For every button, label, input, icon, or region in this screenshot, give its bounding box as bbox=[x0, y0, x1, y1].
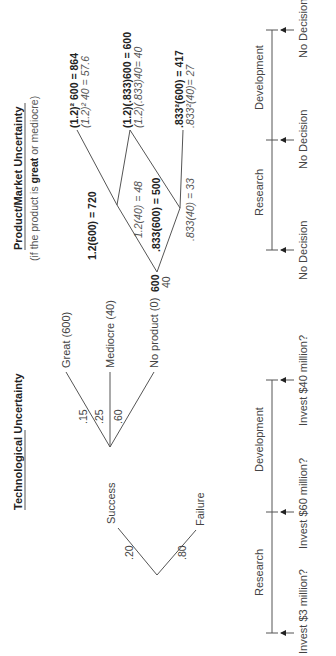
phase-development: Development bbox=[253, 45, 265, 110]
tech-title: Technological Uncertainty bbox=[12, 372, 24, 510]
phase-development: Development bbox=[253, 407, 265, 472]
prob-no-product: .60 bbox=[112, 409, 124, 424]
end-down-down-mediocre: .833²(40)= 27 bbox=[184, 64, 196, 128]
label-success: Success bbox=[105, 482, 117, 524]
mid-up-mediocre: 1.2(40) = 48 bbox=[132, 181, 144, 238]
end-up-down-mediocre: (1.2)(.833)40= 40 bbox=[132, 46, 144, 128]
mid-down-value: .833(600) = 500 bbox=[150, 177, 162, 252]
end-up-up-mediocre: (1.2)² 40 = 57.6 bbox=[79, 56, 91, 128]
label-failure: Failure bbox=[194, 492, 206, 526]
label-great: Great (600) bbox=[60, 312, 72, 368]
arrow-up-icon bbox=[280, 377, 286, 383]
phase-research: Research bbox=[253, 549, 265, 596]
decision-invest-3m: Invest $3 million? bbox=[297, 569, 309, 654]
phase-research: Research bbox=[253, 169, 265, 216]
prob-great: .15 bbox=[77, 409, 89, 424]
prob-success: .20 bbox=[123, 545, 135, 560]
decision-invest-60m: Invest $60 million? bbox=[297, 458, 309, 549]
decision-none-1: No Decision bbox=[297, 221, 309, 280]
product-market-uncertainty-panel: Product/Market Uncertainty (if the produ… bbox=[12, 0, 309, 292]
root-mediocre-value: 40 bbox=[160, 276, 172, 288]
arrow-up-icon bbox=[280, 630, 286, 636]
label-no-product: No product (0) bbox=[148, 298, 160, 368]
decision-tree-diagram: Technological Uncertainty .20 .80 Succes… bbox=[0, 0, 336, 656]
mid-down-mediocre: .833(40) = 33 bbox=[184, 178, 196, 241]
technological-uncertainty-panel: Technological Uncertainty .20 .80 Succes… bbox=[12, 298, 309, 654]
market-subtitle: (if the product is great or mediocre) bbox=[28, 96, 40, 261]
decision-invest-40m: Invest $40 million? bbox=[297, 335, 309, 426]
market-title: Product/Market Uncertainty bbox=[12, 105, 24, 250]
prob-failure: .80 bbox=[176, 545, 188, 560]
arrow-up-icon bbox=[280, 509, 286, 515]
market-timeline: Research Development No Decision No Deci… bbox=[253, 0, 309, 280]
mid-up-value: 1.2(600) = 720 bbox=[86, 191, 98, 260]
tech-timeline: Research Development Invest $3 million? … bbox=[253, 335, 309, 654]
arrow-up-icon bbox=[280, 247, 286, 253]
decision-none-3: No Decision bbox=[297, 0, 309, 58]
arrow-up-icon bbox=[280, 137, 286, 143]
decision-none-2: No Decision bbox=[297, 110, 309, 169]
label-mediocre: Mediocre (40) bbox=[104, 300, 116, 368]
arrow-up-icon bbox=[280, 27, 286, 33]
prob-mediocre: .25 bbox=[93, 409, 105, 424]
